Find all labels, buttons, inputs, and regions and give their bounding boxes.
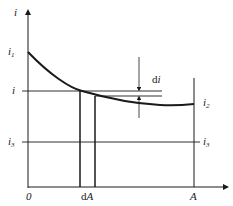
- diagram-canvas: i i1 i i3 i3 i2 di 0 dA A: [0, 0, 233, 206]
- origin-label: 0: [26, 190, 32, 202]
- decay-curve: [28, 52, 194, 105]
- x-axis-label: A: [189, 190, 197, 202]
- i3-left-label: i3: [8, 135, 15, 149]
- y-axis-label: i: [14, 6, 17, 18]
- i-label: i: [12, 84, 15, 96]
- i3-right-label: i3: [203, 135, 210, 149]
- di-label: di: [152, 73, 161, 85]
- dA-label: dA: [81, 190, 94, 202]
- i1-label: i1: [8, 45, 15, 59]
- i2-label: i2: [203, 96, 210, 110]
